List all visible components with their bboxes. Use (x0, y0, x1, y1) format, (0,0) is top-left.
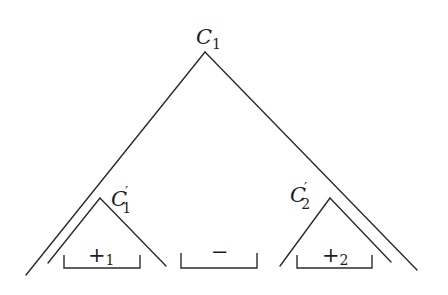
root-left-leg (26, 52, 205, 275)
child1-label: C′1 (111, 184, 131, 216)
root-right-leg (205, 52, 417, 270)
bracket-label: − (211, 240, 229, 264)
bracket-label: +1 (88, 243, 115, 268)
root-label: C1 (196, 25, 221, 52)
interval-bracket-minus: − (181, 240, 257, 268)
interval-bracket-plus2: +2 (297, 243, 372, 268)
child2-label: C′2 (290, 180, 310, 212)
triangle-tree-diagram: C1 C′1 C′2 +1 − +2 (0, 0, 448, 295)
interval-bracket-plus1: +1 (64, 243, 140, 268)
bracket-label: +2 (322, 243, 349, 268)
